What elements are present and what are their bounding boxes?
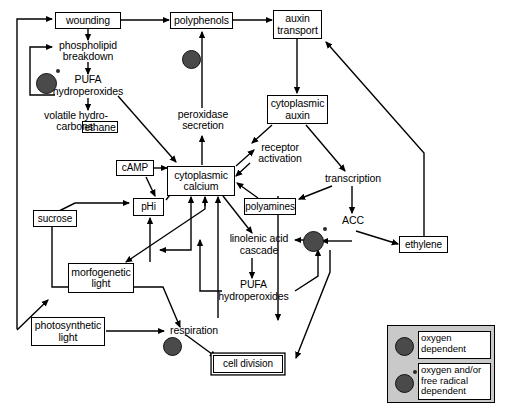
node-phospholipid-breakdown: phospholipid breakdown	[42, 39, 134, 63]
node-cytoplasmic-calcium[interactable]: cytoplasmic calcium	[167, 166, 235, 196]
oxygen-dot-peroxidase	[182, 50, 201, 69]
legend-oxygen-dependent-label: oxygen dependent	[418, 331, 491, 359]
oxygen-free-radical-dot-pufa-top	[36, 73, 57, 94]
node-pufa-hydroperoxides-bottom: PUFA hydroperoxides	[206, 278, 301, 303]
node-sucrose[interactable]: sucrose	[33, 210, 77, 227]
node-receptor-activation: receptor activation	[247, 141, 313, 165]
diagram-canvas: wounding polyphenols auxin transport pho…	[0, 0, 506, 416]
free-radical-spark-icon	[56, 69, 60, 73]
node-camp[interactable]: cAMP	[116, 160, 154, 176]
legend-oxygen-free-radical-label: oxygen and/or free radical dependent	[418, 363, 491, 400]
legend: oxygen dependent oxygen and/or free radi…	[387, 325, 495, 403]
node-cytoplasmic-auxin[interactable]: cytoplasmic auxin	[267, 95, 328, 124]
node-polyamines[interactable]: polyamines	[244, 198, 296, 215]
free-radical-spark-icon	[413, 370, 417, 374]
node-ethane: ethane	[82, 120, 118, 133]
node-cell-division[interactable]: cell division	[213, 355, 283, 373]
node-polyphenols[interactable]: polyphenols	[170, 12, 233, 29]
node-peroxidase-secretion: peroxidase secretion	[167, 107, 239, 133]
node-morfogenetic-light[interactable]: morfogenetic light	[68, 263, 134, 293]
node-acc: ACC	[339, 214, 367, 227]
node-ethylene[interactable]: ethylene	[399, 236, 448, 253]
node-wounding[interactable]: wounding	[55, 12, 121, 29]
node-phi[interactable]: pHi	[133, 198, 164, 216]
legend-free-radical-dot	[395, 374, 414, 393]
node-auxin-transport[interactable]: auxin transport	[273, 10, 322, 39]
oxygen-free-radical-dot-linolenic	[303, 231, 324, 252]
legend-oxygen-dot	[395, 337, 414, 356]
ethane-label: ethane	[82, 121, 118, 133]
node-transcription: transcription	[319, 172, 387, 185]
oxygen-dot-respiration	[163, 337, 182, 356]
node-photosynthetic-light[interactable]: photosynthetic light	[31, 317, 105, 346]
node-linolenic-acid-cascade: linolenic acid cascade	[222, 232, 296, 257]
node-respiration: respiration	[164, 324, 224, 338]
free-radical-spark-icon	[323, 227, 327, 231]
